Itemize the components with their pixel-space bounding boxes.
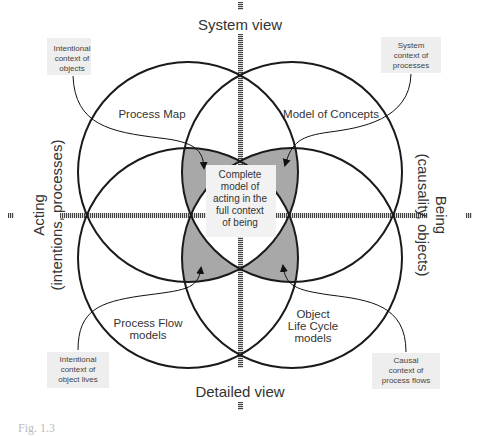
axis-tick-top <box>238 2 243 10</box>
callout-text: process flows <box>382 376 430 385</box>
callout-bottom-left: Intentional context of object lives <box>47 352 109 388</box>
center-label-3: acting in the <box>213 193 267 204</box>
axis-label-left-title: Acting <box>30 194 47 236</box>
callout-bottom-right: Causal context of process flows <box>372 353 440 389</box>
callout-text: System <box>398 41 425 50</box>
region-label-process-flow-2: models <box>129 329 166 341</box>
callout-text: Causal <box>394 356 419 365</box>
region-label-model-of-concepts: Model of Concepts <box>283 108 379 120</box>
axis-label-bottom: Detailed view <box>195 383 284 400</box>
center-label-2: model of <box>221 181 260 192</box>
region-label-process-flow-1: Process Flow <box>113 317 183 329</box>
callout-text: Intentional <box>54 44 91 53</box>
axis-tick-right <box>466 213 472 218</box>
axis-label-left-sub: (intentions, processes) <box>48 140 65 291</box>
callout-top-right: System context of processes <box>381 37 441 73</box>
region-label-olc-1: Object <box>296 308 330 320</box>
region-label-olc-2: Life Cycle <box>288 320 339 332</box>
figure-caption: Fig. 1.3 <box>18 421 55 436</box>
callout-text: context of <box>394 51 429 60</box>
center-label-4: full context <box>216 205 264 216</box>
region-label-olc-3: models <box>294 332 331 344</box>
axis-label-right-title: Being <box>433 196 450 234</box>
axis-label-top: System view <box>198 16 282 33</box>
callout-text: context of <box>389 366 424 375</box>
axis-tick-bottom <box>238 402 243 410</box>
callout-top-left: Intentional context of objects <box>47 38 91 75</box>
callout-text: objects <box>59 64 84 73</box>
center-label-1: Complete <box>219 169 262 180</box>
center-label-5: of being <box>222 217 258 228</box>
callout-text: Intentional <box>60 355 97 364</box>
axis-tick-left <box>8 213 14 218</box>
axis-label-right-sub: (causality, objects) <box>415 153 432 276</box>
region-label-process-map: Process Map <box>118 108 185 120</box>
callout-text: context of <box>61 365 96 374</box>
callout-text: processes <box>393 61 429 70</box>
callout-text: object lives <box>58 375 98 384</box>
callout-text: context of <box>55 54 90 63</box>
